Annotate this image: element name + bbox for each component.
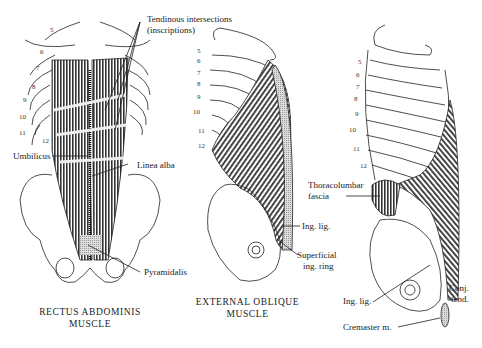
anatomy-figure: 5 6 7 8 9 10 11 12 Tendinous intersectio… bbox=[0, 0, 482, 348]
rib-number: 6 bbox=[356, 71, 360, 79]
label-pyramidalis: Pyramidalis bbox=[144, 267, 187, 277]
rib-number: 11 bbox=[198, 127, 205, 135]
rib-number: 9 bbox=[23, 96, 27, 104]
label-tend: tend. bbox=[451, 294, 469, 304]
label-inscriptions: (inscriptions) bbox=[147, 25, 195, 35]
rib-number: 11 bbox=[19, 129, 26, 137]
rib-number: 10 bbox=[349, 126, 356, 134]
internal-oblique-drawing bbox=[346, 25, 459, 327]
rib-number: 12 bbox=[198, 142, 205, 150]
rib-number: 9 bbox=[355, 110, 359, 118]
rib-number: 11 bbox=[353, 145, 360, 153]
label-conj: Conj. bbox=[449, 283, 469, 293]
rib-number: 5 bbox=[50, 26, 54, 34]
rib-number: 10 bbox=[19, 113, 26, 121]
label-ing-lig-internal: Ing. lig. bbox=[343, 296, 371, 306]
rib-number: 7 bbox=[356, 83, 360, 91]
rib-number: 5 bbox=[358, 58, 362, 66]
label-fascia: fascia bbox=[308, 191, 329, 201]
rib-number: 8 bbox=[354, 95, 358, 103]
rib-number: 6 bbox=[197, 57, 201, 65]
label-ing-ring: ing. ring bbox=[303, 261, 334, 271]
rib-number: 6 bbox=[40, 48, 44, 56]
rib-number: 7 bbox=[197, 69, 201, 77]
label-tendinous-intersections: Tendinous intersections bbox=[147, 14, 232, 24]
caption-external-oblique: EXTERNAL OBLIQUE MUSCLE bbox=[195, 296, 300, 320]
external-oblique-drawing bbox=[208, 28, 300, 281]
label-cremaster: Cremaster m. bbox=[343, 322, 392, 332]
label-thoracolumbar: Thoracolumbar bbox=[308, 180, 363, 190]
rib-number: 5 bbox=[197, 47, 201, 55]
rib-number: 12 bbox=[360, 162, 367, 170]
rib-number: 8 bbox=[197, 80, 201, 88]
rib-number: 7 bbox=[36, 64, 40, 72]
label-umbilicus: Umbilicus bbox=[13, 151, 51, 161]
rib-number: 8 bbox=[32, 83, 36, 91]
caption-rectus-abdominis: RECTUS ABDOMINIS MUSCLE bbox=[35, 306, 145, 330]
rib-number: 12 bbox=[42, 137, 49, 145]
label-superficial: Superficial bbox=[297, 250, 337, 260]
rib-number: 9 bbox=[197, 93, 201, 101]
rib-number: 10 bbox=[193, 108, 200, 116]
label-ing-lig: Ing. lig. bbox=[302, 221, 330, 231]
label-linea-alba: Linea alba bbox=[137, 160, 175, 170]
